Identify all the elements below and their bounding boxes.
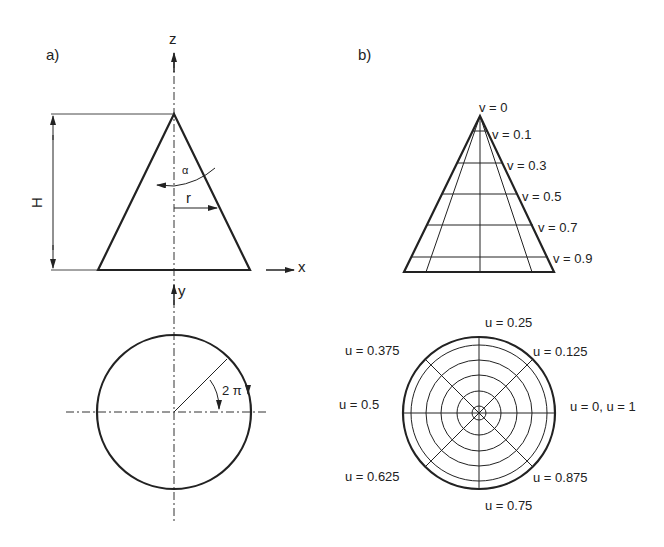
x-axis-label: x (298, 258, 306, 275)
v-label-5: v = 0.9 (553, 251, 592, 266)
rotation-label: 2 π (222, 383, 242, 398)
y-axis-label: y (178, 282, 186, 299)
u-label-0.125: u = 0.125 (533, 344, 588, 359)
v-label-1: v = 0.1 (492, 127, 531, 142)
u-labels: u = 0.25 u = 0.125 u = 0.375 u = 0.5 u =… (339, 315, 636, 513)
u-label-0.375: u = 0.375 (345, 343, 400, 358)
alpha-label: α (182, 164, 189, 176)
panel-b: b) v = 0 v = 0.1 v = 0.3 v = 0.5 v = 0.7… (339, 46, 636, 513)
u-label-0.875: u = 0.875 (533, 470, 588, 485)
rotation-arc (210, 380, 219, 408)
alpha-arrow-icon (157, 185, 174, 186)
v-label-2: v = 0.3 (507, 158, 546, 173)
z-axis-label: z (169, 30, 177, 47)
v-label-4: v = 0.7 (538, 220, 577, 235)
v-label-0: v = 0 (479, 100, 508, 115)
cone-parametrization-figure: a) z H α r x y 2 π (0, 0, 664, 547)
panel-a: a) z H α r x y 2 π (28, 30, 306, 522)
panel-a-label: a) (46, 46, 59, 63)
u-label-0-1: u = 0, u = 1 (570, 399, 636, 414)
radius-label: r (186, 189, 191, 206)
u-label-0.5: u = 0.5 (339, 397, 379, 412)
v-label-3: v = 0.5 (522, 189, 561, 204)
u-label-0.25: u = 0.25 (485, 315, 532, 330)
u-label-0.75: u = 0.75 (485, 498, 532, 513)
u-label-0.625: u = 0.625 (345, 469, 400, 484)
polar-mesh (403, 337, 555, 489)
height-label: H (28, 197, 45, 208)
panel-b-label: b) (358, 46, 371, 63)
v-labels: v = 0 v = 0.1 v = 0.3 v = 0.5 v = 0.7 v … (479, 100, 592, 266)
